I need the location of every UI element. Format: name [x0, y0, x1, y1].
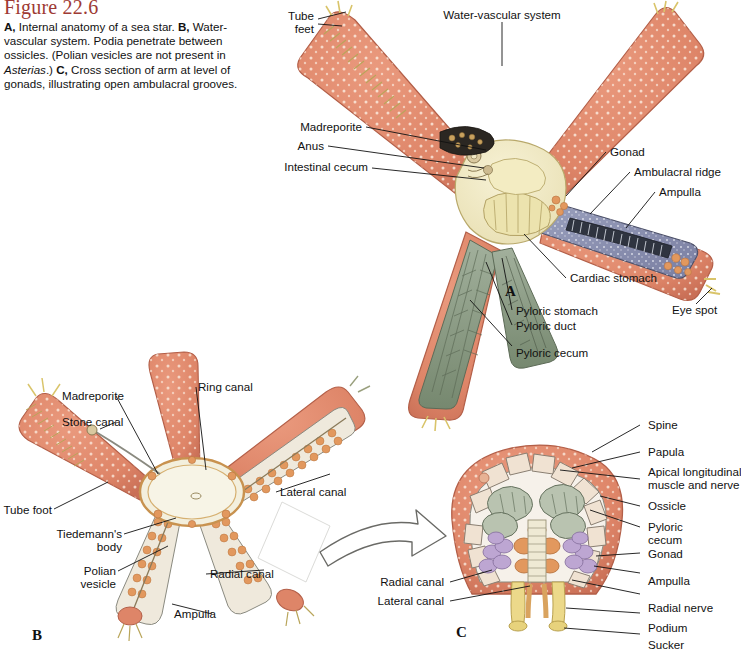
label-sucker: Sucker — [648, 638, 684, 651]
panel-letter-a: A — [505, 283, 516, 300]
panel-c-illustration — [452, 445, 623, 631]
label-water-vascular-system: Water-vascular system — [412, 8, 592, 21]
label-pyloric-cecum-c: Pyloric cecum — [648, 520, 683, 546]
label-pyloric-stomach: Pyloric stomach — [516, 304, 598, 317]
label-pyloric-cecum-a: Pyloric cecum — [516, 346, 588, 359]
transition-arrow — [320, 510, 446, 566]
label-intestinal-cecum: Intestinal cecum — [196, 160, 368, 173]
label-ampulla-b: Ampulla — [140, 607, 216, 620]
ring-canal-disc — [140, 456, 244, 527]
sea-star-central-disc — [440, 126, 568, 244]
label-gonad-a: Gonad — [610, 145, 645, 158]
panel-letter-c: C — [456, 624, 467, 641]
label-ossicle: Ossicle — [648, 499, 686, 512]
label-apical-longitudinal-muscle-and-nerve: Apical longitudinal muscle and nerve — [648, 465, 741, 491]
label-anus: Anus — [220, 139, 324, 152]
gonad-cluster — [549, 196, 568, 215]
sea-star-arm-lower-left-dissected — [409, 232, 500, 431]
label-polian-vesicle: Polian vesicle — [20, 564, 116, 590]
label-lateral-canal-b: Lateral canal — [280, 485, 346, 498]
arm-lower-right-boxed — [196, 502, 330, 626]
label-lateral-canal-c: Lateral canal — [322, 594, 444, 607]
label-cardiac-stomach: Cardiac stomach — [570, 271, 657, 284]
label-ambulacral-ridge: Ambulacral ridge — [634, 165, 721, 178]
label-gonad-c: Gonad — [648, 547, 683, 560]
podium-group — [509, 582, 567, 631]
label-eye-spot: Eye spot — [672, 303, 717, 316]
label-podium: Podium — [648, 621, 687, 634]
label-tube-feet: Tube feet — [272, 9, 314, 35]
label-pyloric-duct: Pyloric duct — [516, 319, 576, 332]
label-ring-canal: Ring canal — [198, 380, 253, 393]
label-papula: Papula — [648, 445, 684, 458]
gonad-purple — [479, 532, 597, 573]
arm-lower-left-canals — [116, 506, 182, 641]
label-radial-canal-b: Radial canal — [210, 567, 274, 580]
sea-star-arm-upper-left — [298, 1, 490, 205]
panel-letter-b: B — [32, 627, 42, 644]
sea-star-arm-right-dissected — [538, 200, 720, 300]
label-stone-canal: Stone canal — [62, 415, 123, 428]
panel-a-illustration — [298, 1, 720, 431]
label-spine: Spine — [648, 418, 678, 431]
figure-caption: A, Internal anatomy of a sea star. B, Wa… — [4, 20, 270, 91]
label-ampulla-a: Ampulla — [659, 185, 701, 198]
label-radial-canal-c: Radial canal — [322, 575, 444, 588]
label-ampulla-c: Ampulla — [648, 574, 690, 587]
leader-lines — [54, 12, 712, 634]
label-tube-foot: Tube foot — [0, 503, 52, 516]
label-radial-nerve: Radial nerve — [648, 601, 713, 614]
label-madreporite-a: Madreporite — [220, 120, 362, 133]
label-tiedemanns-body: Tiedemann's body — [0, 527, 122, 553]
figure-number: Figure 22.6 — [4, 0, 98, 19]
label-madreporite-b: Madreporite — [62, 389, 124, 402]
